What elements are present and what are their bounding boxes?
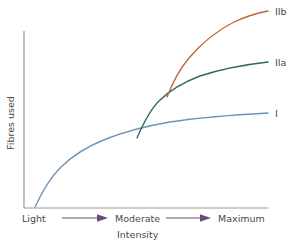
fibre-recruitment-chart: IIb IIa I Fibres used Light Moderate Max…: [0, 0, 298, 245]
series-label-i: I: [275, 108, 278, 119]
x-tick-label-light: Light: [22, 213, 46, 224]
curve-type-i: [35, 113, 268, 207]
series-label-iia: IIa: [275, 57, 286, 68]
x-tick-label-maximum: Maximum: [218, 213, 265, 224]
arrow-moderate-to-maximum-icon: [166, 214, 211, 222]
x-axis-title: Intensity: [117, 229, 159, 240]
chart-svg: IIb IIa I Fibres used Light Moderate Max…: [0, 0, 298, 245]
y-axis-title: Fibres used: [5, 96, 16, 150]
series-label-iib: IIb: [275, 6, 287, 17]
x-tick-label-moderate: Moderate: [115, 213, 160, 224]
arrow-light-to-moderate-icon: [62, 214, 108, 222]
curve-type-iia: [137, 62, 268, 138]
